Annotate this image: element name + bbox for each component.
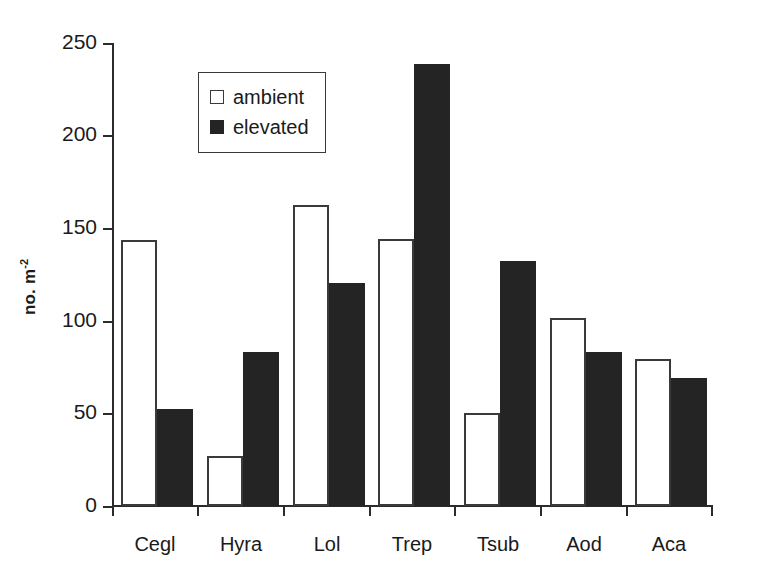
y-tick-label-50: 50	[74, 401, 97, 423]
y-tick-label-200: 200	[62, 123, 97, 145]
x-axis-label-lol: Lol	[314, 533, 341, 555]
bar-elevated-tsub	[500, 261, 536, 506]
legend-label-elevated: elevated	[233, 116, 309, 138]
bar-ambient-aca	[635, 359, 671, 506]
bar-elevated-aca	[671, 378, 707, 506]
bar-chart: no. m-2 0 50 100 150 200 250	[0, 0, 768, 578]
bar-ambient-lol	[293, 205, 329, 506]
x-axis-label-tsub: Tsub	[477, 533, 519, 555]
x-tick-2	[283, 507, 285, 516]
x-axis-label-aca: Aca	[652, 533, 686, 555]
legend: ambient elevated	[198, 72, 326, 153]
filled-square-icon	[210, 120, 224, 134]
bar-elevated-cegl	[157, 409, 193, 506]
legend-item-elevated: elevated	[210, 112, 309, 142]
y-tick-label-100: 100	[62, 309, 97, 331]
y-tick-label-0: 0	[85, 494, 97, 516]
x-axis-label-trep: Trep	[392, 533, 432, 555]
bar-elevated-trep	[414, 64, 450, 506]
y-tick-200: 200	[103, 135, 112, 137]
y-tick-label-150: 150	[62, 216, 97, 238]
y-tick-150: 150	[103, 228, 112, 230]
y-axis-label: no. m-2	[18, 202, 40, 372]
bar-elevated-hyra	[243, 352, 279, 506]
y-axis-label-container: no. m-2	[6, 0, 52, 578]
y-tick-50: 50	[103, 413, 112, 415]
legend-item-ambient: ambient	[210, 82, 309, 112]
y-tick-100: 100	[103, 321, 112, 323]
x-tick-3	[369, 507, 371, 516]
y-axis-label-base: no. m	[20, 269, 39, 315]
x-tick-6	[626, 507, 628, 516]
y-tick-0: 0	[103, 506, 112, 508]
x-tick-0	[112, 507, 114, 516]
bar-ambient-cegl	[121, 240, 157, 506]
x-tick-7	[711, 507, 713, 516]
x-tick-5	[540, 507, 542, 516]
bar-ambient-aod	[550, 318, 586, 506]
x-tick-4	[454, 507, 456, 516]
x-axis-label-aod: Aod	[566, 533, 602, 555]
bar-ambient-hyra	[207, 456, 243, 506]
x-axis-label-hyra: Hyra	[220, 533, 262, 555]
legend-label-ambient: ambient	[233, 86, 304, 108]
y-tick-250: 250	[103, 43, 112, 45]
bar-ambient-tsub	[464, 413, 500, 506]
y-axis-label-exponent: -2	[18, 259, 30, 269]
x-axis-label-cegl: Cegl	[134, 533, 175, 555]
x-tick-1	[197, 507, 199, 516]
y-axis-line	[112, 43, 114, 508]
bar-elevated-aod	[586, 352, 622, 506]
y-tick-label-250: 250	[62, 31, 97, 53]
bar-elevated-lol	[329, 283, 365, 506]
bar-ambient-trep	[378, 239, 414, 506]
open-square-icon	[210, 90, 224, 104]
